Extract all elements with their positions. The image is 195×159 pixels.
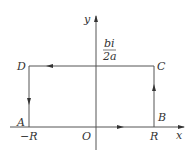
- height-numerator: bi: [104, 37, 115, 50]
- arrow-BC-icon: [152, 84, 156, 91]
- y-axis-label: y: [83, 13, 91, 26]
- height-denominator: 2a: [102, 50, 117, 63]
- arrow-DA-icon: [27, 98, 31, 105]
- neg-R-tick-label: −R: [20, 130, 38, 143]
- arrow-CD-icon: [46, 64, 53, 68]
- contour-diagram: y x O A B C D −R R bi 2a: [0, 0, 195, 159]
- y-axis-arrow-icon: [94, 15, 98, 22]
- vertex-D-label: D: [16, 60, 26, 73]
- origin-label: O: [82, 130, 91, 143]
- vertex-A-label: A: [16, 116, 25, 129]
- pos-R-tick-label: R: [149, 130, 158, 143]
- x-axis-label: x: [176, 129, 183, 142]
- arrow-AB-icon: [117, 125, 124, 129]
- vertex-C-label: C: [157, 60, 166, 73]
- vertex-B-label: B: [157, 111, 166, 124]
